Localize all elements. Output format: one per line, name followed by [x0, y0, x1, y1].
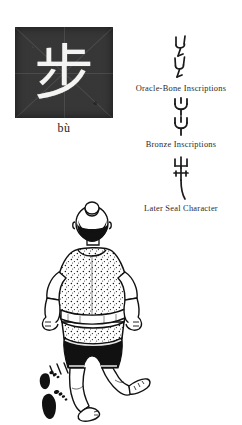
later-seal-glyph — [122, 154, 240, 204]
stage-label-oracle-bone: Oracle-Bone Inscriptions — [122, 84, 240, 93]
head-group — [73, 202, 112, 245]
footprint-upper — [40, 370, 60, 389]
bronze-glyph — [122, 96, 240, 140]
motion-lines — [50, 363, 68, 376]
page-canvas: 步 bù Orac — [0, 0, 242, 425]
footprint-lower — [42, 389, 68, 419]
torso-group — [57, 248, 128, 344]
footprint-trail — [40, 370, 68, 419]
legs-group — [70, 368, 150, 421]
pinyin-label: bù — [15, 121, 113, 136]
character-seal-box: 步 — [15, 27, 113, 118]
modern-character-glyph: 步 — [15, 27, 113, 118]
illustration-walking-person — [28, 198, 168, 423]
stage-label-bronze: Bronze Inscriptions — [122, 140, 240, 149]
oracle-bone-glyph — [122, 32, 240, 84]
script-stage-bronze: Bronze Inscriptions — [122, 96, 240, 149]
script-stage-oracle-bone: Oracle-Bone Inscriptions — [122, 32, 240, 93]
